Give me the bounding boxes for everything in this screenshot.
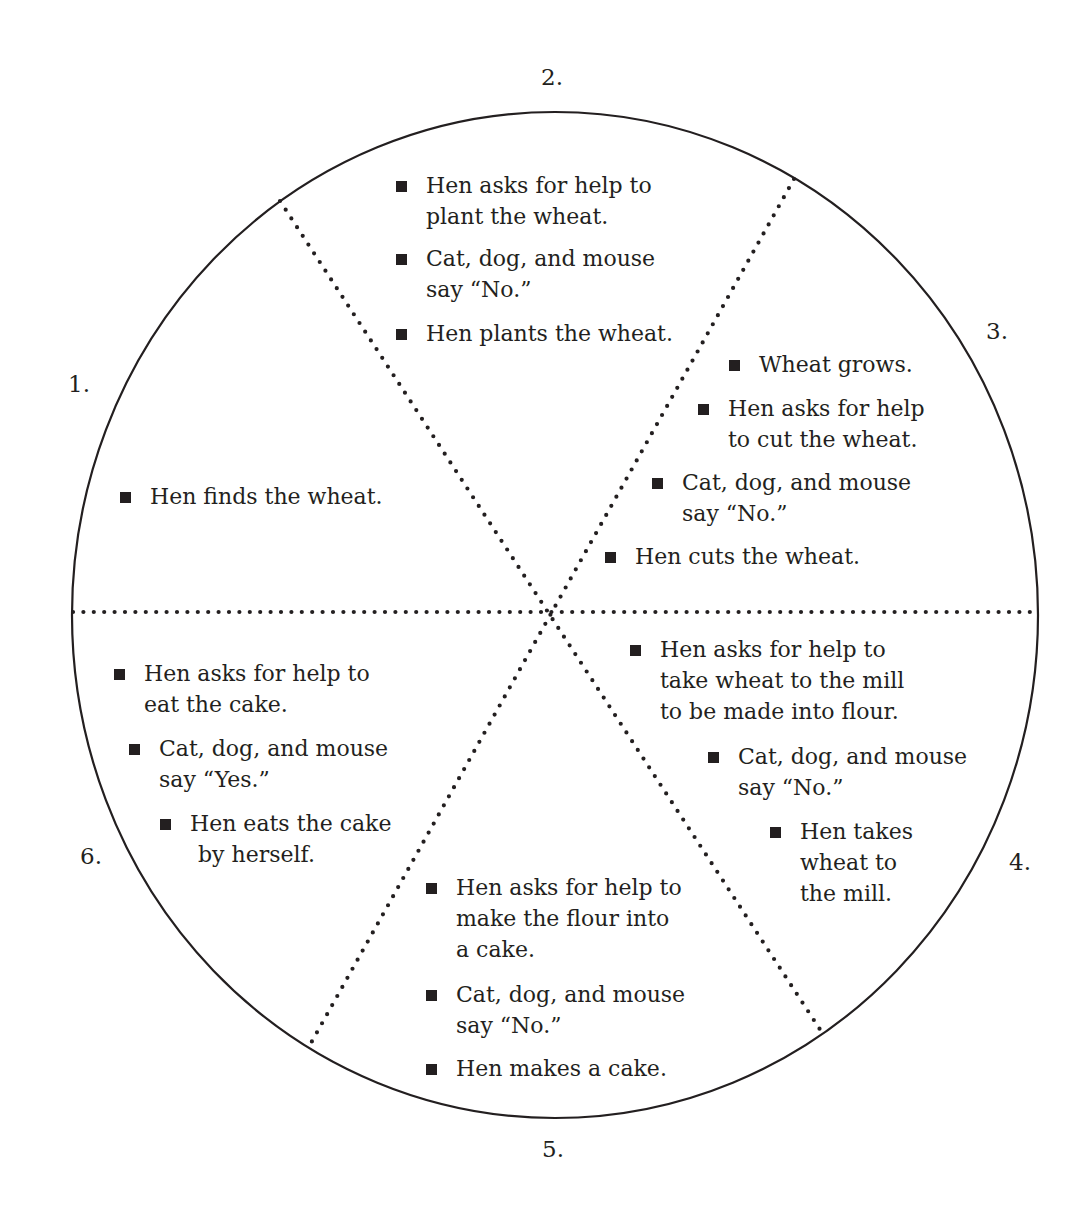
square-bullet-icon xyxy=(160,819,171,830)
square-bullet-icon xyxy=(396,329,407,340)
section-number-5: 5. xyxy=(542,1138,564,1161)
section-6-event: Hen asks for help to eat the cake. xyxy=(144,658,370,720)
section-4-event: Cat, dog, and mouse say “No.” xyxy=(738,741,967,803)
section-6-event: Hen eats the cake by herself. xyxy=(190,808,391,870)
square-bullet-icon xyxy=(708,752,719,763)
section-2-event: Hen asks for help to plant the wheat. xyxy=(426,170,652,232)
section-number-6: 6. xyxy=(80,845,102,868)
section-number-2: 2. xyxy=(541,66,563,89)
square-bullet-icon xyxy=(120,492,131,503)
square-bullet-icon xyxy=(630,645,641,656)
section-3-event: Cat, dog, and mouse say “No.” xyxy=(682,467,911,529)
square-bullet-icon xyxy=(652,478,663,489)
section-2-event: Hen plants the wheat. xyxy=(426,318,673,349)
square-bullet-icon xyxy=(770,827,781,838)
square-bullet-icon xyxy=(426,1064,437,1075)
section-2-event: Cat, dog, and mouse say “No.” xyxy=(426,243,655,305)
section-4-event: Hen takes wheat to the mill. xyxy=(800,816,913,909)
section-3-event: Hen asks for help to cut the wheat. xyxy=(728,393,925,455)
section-5-event: Cat, dog, and mouse say “No.” xyxy=(456,979,685,1041)
square-bullet-icon xyxy=(698,404,709,415)
section-3-event: Hen cuts the wheat. xyxy=(635,541,860,572)
square-bullet-icon xyxy=(729,360,740,371)
section-3-event: Wheat grows. xyxy=(759,349,913,380)
square-bullet-icon xyxy=(396,254,407,265)
square-bullet-icon xyxy=(426,883,437,894)
square-bullet-icon xyxy=(605,552,616,563)
square-bullet-icon xyxy=(396,181,407,192)
section-number-4: 4. xyxy=(1009,851,1031,874)
square-bullet-icon xyxy=(114,669,125,680)
section-5-event: Hen makes a cake. xyxy=(456,1053,667,1084)
section-number-1: 1. xyxy=(68,373,90,396)
section-1-event: Hen finds the wheat. xyxy=(150,481,383,512)
section-5-event: Hen asks for help to make the flour into… xyxy=(456,872,682,965)
square-bullet-icon xyxy=(129,744,140,755)
section-number-3: 3. xyxy=(986,320,1008,343)
square-bullet-icon xyxy=(426,990,437,1001)
section-4-event: Hen asks for help to take wheat to the m… xyxy=(660,634,904,727)
section-6-event: Cat, dog, and mouse say “Yes.” xyxy=(159,733,388,795)
